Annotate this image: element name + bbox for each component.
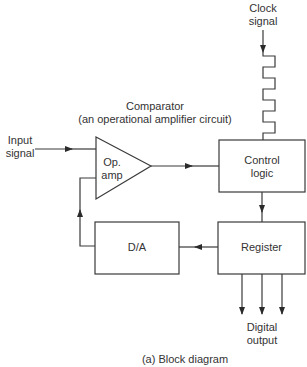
register-label: Register xyxy=(218,241,305,254)
block-diagram xyxy=(0,0,307,367)
comparator-label: Comparator (an operational amplifier cir… xyxy=(70,100,240,126)
digital-output-label: Digital output xyxy=(237,321,287,347)
control-logic-label: Control logic xyxy=(219,154,305,180)
da-label: D/A xyxy=(95,241,179,254)
clock-signal-label: Clock signal xyxy=(243,2,283,28)
opamp-label: Op. amp xyxy=(98,156,126,182)
caption: (a) Block diagram xyxy=(100,353,270,366)
input-signal-label: Input signal xyxy=(3,134,37,160)
clock-waveform xyxy=(263,52,275,140)
feedback-arrow xyxy=(80,210,95,246)
